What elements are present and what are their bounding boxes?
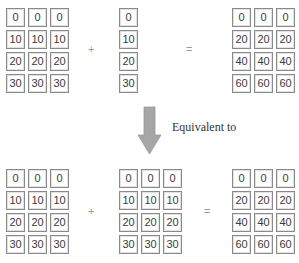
- cell: 20: [232, 30, 251, 49]
- cell: 0: [119, 169, 138, 188]
- cell: 0: [232, 169, 251, 188]
- cell: 20: [276, 30, 295, 49]
- cell: 20: [6, 52, 25, 71]
- cell: 30: [6, 235, 25, 254]
- equals-operator-bottom: =: [204, 205, 210, 217]
- cell: 10: [163, 191, 182, 210]
- cell: 40: [254, 213, 273, 232]
- cell: 10: [50, 191, 69, 210]
- cell: 60: [232, 74, 251, 93]
- cell: 0: [141, 169, 160, 188]
- cell: 0: [28, 8, 47, 27]
- cell: 0: [119, 8, 138, 27]
- cell: 20: [254, 191, 273, 210]
- cell: 30: [141, 235, 160, 254]
- down-arrow-icon: [137, 106, 163, 156]
- cell: 0: [6, 169, 25, 188]
- cell: 0: [50, 169, 69, 188]
- plus-operator-bottom: +: [88, 205, 94, 217]
- cell: 40: [232, 213, 251, 232]
- cell: 20: [276, 191, 295, 210]
- cell: 40: [276, 52, 295, 71]
- cell: 0: [232, 8, 251, 27]
- cell: 20: [119, 213, 138, 232]
- cell: 30: [50, 74, 69, 93]
- cell: 10: [6, 30, 25, 49]
- cell: 0: [50, 8, 69, 27]
- cell: 0: [276, 169, 295, 188]
- cell: 10: [119, 30, 138, 49]
- cell: 20: [232, 191, 251, 210]
- cell: 10: [119, 191, 138, 210]
- cell: 20: [141, 213, 160, 232]
- cell: 0: [28, 169, 47, 188]
- cell: 30: [50, 235, 69, 254]
- cell: 20: [50, 52, 69, 71]
- equals-operator-top: =: [186, 43, 192, 55]
- cell: 10: [50, 30, 69, 49]
- cell: 20: [254, 30, 273, 49]
- cell: 20: [6, 213, 25, 232]
- cell: 60: [254, 235, 273, 254]
- cell: 20: [119, 52, 138, 71]
- cell: 20: [163, 213, 182, 232]
- cell: 10: [28, 191, 47, 210]
- cell: 20: [28, 213, 47, 232]
- cell: 40: [276, 213, 295, 232]
- cell: 40: [232, 52, 251, 71]
- cell: 0: [163, 169, 182, 188]
- cell: 30: [28, 235, 47, 254]
- cell: 10: [28, 30, 47, 49]
- cell: 30: [6, 74, 25, 93]
- cell: 20: [28, 52, 47, 71]
- cell: 30: [28, 74, 47, 93]
- cell: 0: [254, 169, 273, 188]
- plus-operator-top: +: [88, 43, 94, 55]
- cell: 60: [276, 235, 295, 254]
- cell: 40: [254, 52, 273, 71]
- cell: 10: [141, 191, 160, 210]
- equivalent-to-label: Equivalent to: [172, 120, 236, 135]
- cell: 0: [6, 8, 25, 27]
- cell: 0: [254, 8, 273, 27]
- cell: 10: [6, 191, 25, 210]
- cell: 60: [254, 74, 273, 93]
- cell: 30: [163, 235, 182, 254]
- cell: 30: [119, 74, 138, 93]
- cell: 0: [276, 8, 295, 27]
- cell: 60: [232, 235, 251, 254]
- cell: 30: [119, 235, 138, 254]
- cell: 20: [50, 213, 69, 232]
- cell: 60: [276, 74, 295, 93]
